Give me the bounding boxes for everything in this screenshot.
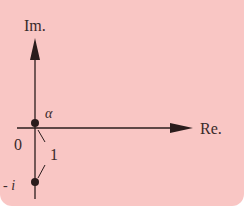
origin-label: 0 xyxy=(14,136,22,153)
point-minus-i xyxy=(31,178,39,186)
distance-mark-top xyxy=(38,130,45,142)
complex-plane-diagram: Im. Re. α 0 1 - i xyxy=(0,0,245,216)
alpha-label: α xyxy=(45,106,53,121)
im-axis-label: Im. xyxy=(24,17,46,34)
distance-label: 1 xyxy=(50,146,58,163)
point-alpha xyxy=(31,119,39,127)
distance-mark-bottom xyxy=(38,165,45,178)
re-axis-label: Re. xyxy=(200,120,222,137)
minus-i-label: - i xyxy=(3,178,15,193)
im-axis-arrow-icon xyxy=(30,38,40,60)
re-axis-arrow-icon xyxy=(170,123,193,133)
